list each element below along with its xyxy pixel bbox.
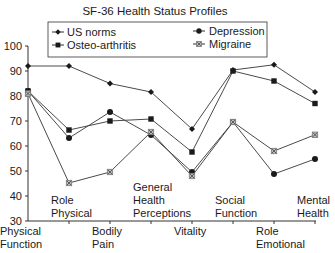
x-category-label: PhysicalFunction: [0, 225, 42, 250]
x-category-label: MentalHealth: [297, 194, 330, 219]
square-icon: [56, 43, 61, 48]
legend-label: Depression: [209, 25, 265, 37]
y-tick-label: 70: [10, 115, 22, 127]
square-marker: [66, 127, 71, 132]
square-marker: [148, 116, 153, 121]
asterisk-square-marker: [66, 180, 71, 185]
circle-marker: [271, 171, 277, 177]
circle-marker: [312, 156, 318, 162]
square-marker: [56, 43, 61, 48]
sf36-line-chart: SF-36 Health Status Profiles US norms Os…: [0, 0, 335, 253]
x-category-label: RoleEmotional: [256, 225, 305, 250]
asterisk-square-marker: [271, 148, 276, 153]
square-marker: [230, 68, 235, 73]
circle-marker: [196, 28, 201, 33]
x-category-label: RolePhysical: [51, 194, 92, 219]
asterisk-square-marker: [107, 169, 112, 174]
asterisk-square-marker: [189, 173, 194, 178]
asterisk-square-marker: [197, 42, 202, 47]
asterisk-square-marker: [312, 132, 317, 137]
x-category-label: Vitality: [174, 225, 207, 237]
square-marker: [312, 101, 317, 106]
square-marker: [271, 78, 276, 83]
x-category-label: SocialFunction: [215, 194, 257, 219]
diamond-marker: [107, 81, 113, 87]
square-marker: [189, 149, 194, 154]
x-category-label: BodilyPain: [92, 225, 122, 250]
circle-icon: [196, 28, 201, 33]
y-tick-label: 100: [4, 40, 22, 52]
diamond-marker: [25, 63, 31, 69]
asterisk-square-marker: [230, 119, 235, 124]
circle-marker: [66, 135, 72, 141]
chart-title: SF-36 Health Status Profiles: [82, 5, 227, 17]
x-category-label: GeneralHealthPerceptions: [133, 181, 192, 219]
y-tick-label: 80: [10, 90, 22, 102]
y-tick-label: 60: [10, 140, 22, 152]
y-tick-label: 90: [10, 65, 22, 77]
x-axis-labels: PhysicalFunctionRolePhysicalBodilyPainGe…: [0, 181, 330, 250]
legend-label: US norms: [67, 26, 116, 38]
asterisk-square-icon: [197, 42, 202, 47]
diamond-marker: [271, 62, 277, 68]
series-lines: [25, 62, 318, 186]
asterisk-square-marker: [25, 91, 30, 96]
diamond-marker: [66, 63, 72, 69]
series-osteo-arthritis: [25, 68, 317, 154]
legend-label: Migraine: [209, 38, 251, 50]
diamond-marker: [312, 89, 318, 95]
asterisk-square-marker: [148, 129, 153, 134]
series-us-norms: [25, 62, 318, 132]
circle-marker: [107, 109, 113, 115]
y-tick-label: 40: [10, 190, 22, 202]
y-tick-label: 50: [10, 165, 22, 177]
square-marker: [107, 118, 112, 123]
legend: US norms Osteo-arthritis Depression Migr…: [48, 22, 267, 57]
legend-label: Osteo-arthritis: [67, 39, 137, 51]
